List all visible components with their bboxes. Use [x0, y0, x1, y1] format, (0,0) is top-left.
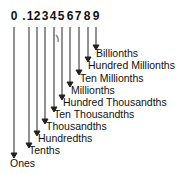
label-billionths: Billionths — [96, 47, 138, 59]
label-hundred-millionths: Hundred Millionths — [88, 59, 175, 71]
label-ten-thousandths: Ten Thousandths — [54, 108, 134, 120]
label-tenths: Tenths — [29, 144, 60, 156]
label-hundred-thousandths: Hundred Thousandths — [63, 96, 167, 108]
label-ten-millionths: Ten Millionths — [80, 72, 144, 84]
label-ones: Ones — [10, 157, 35, 169]
decorative-mark-icon — [56, 35, 58, 42]
label-thousandths: Thousandths — [46, 120, 107, 132]
label-millionths: Millionths — [71, 84, 115, 96]
label-hundredths: Hundredths — [38, 132, 92, 144]
